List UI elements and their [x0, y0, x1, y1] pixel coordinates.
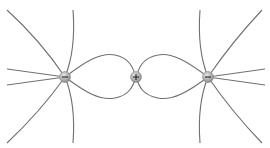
field-line	[65, 10, 74, 77]
field-line	[136, 54, 208, 77]
field-line	[7, 69, 65, 77]
field-line	[65, 77, 136, 99]
field-line	[199, 10, 208, 77]
positive-charge-center	[131, 72, 142, 83]
field-line	[208, 69, 265, 77]
field-line	[65, 54, 136, 77]
field-line-diagram	[0, 0, 270, 148]
field-line	[208, 77, 262, 143]
field-line	[7, 10, 65, 77]
field-line	[208, 77, 265, 85]
field-line	[136, 77, 208, 99]
field-line	[208, 10, 262, 77]
negative-charge-left	[60, 72, 71, 83]
field-line	[7, 77, 65, 85]
field-line	[65, 77, 74, 143]
field-line	[199, 77, 208, 143]
negative-charge-right	[203, 72, 214, 83]
field-line	[7, 77, 65, 143]
